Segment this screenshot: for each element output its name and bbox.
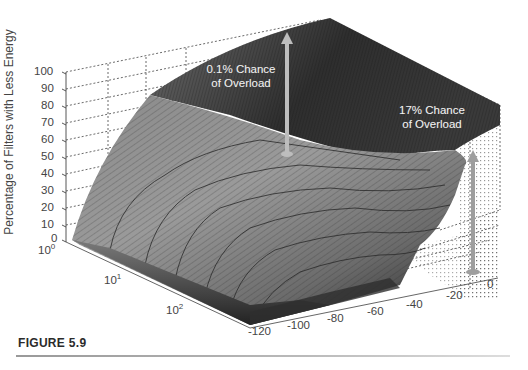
z-tick: 20 — [41, 201, 54, 213]
z-tick: 100 — [34, 65, 53, 77]
caption-divider — [16, 355, 510, 357]
z-axis-label: Percentage of Filters with Less Energy — [2, 12, 16, 252]
log-tick: 100 — [38, 242, 55, 256]
annotation-17pct: 17% Chance of Overload — [392, 103, 472, 131]
linear-tick: 0 — [487, 278, 493, 290]
z-tick: 60 — [41, 133, 54, 145]
z-tick: 80 — [41, 99, 54, 111]
z-tick: 50 — [41, 150, 54, 162]
z-tick: 70 — [41, 116, 54, 128]
annotation-0.1pct: 0.1% Chance of Overload — [196, 62, 286, 90]
linear-tick: -100 — [287, 319, 310, 331]
z-tick: 40 — [41, 167, 54, 179]
linear-tick: -40 — [406, 298, 423, 310]
z-tick: 30 — [41, 184, 54, 196]
surface-plot — [0, 0, 528, 370]
linear-tick: -20 — [446, 289, 463, 301]
figure-caption: FIGURE 5.9 — [18, 336, 86, 350]
z-tick: 90 — [41, 82, 54, 94]
linear-tick: -60 — [367, 305, 384, 317]
log-tick: 102 — [166, 302, 183, 316]
z-axis — [62, 72, 66, 242]
log-tick: 101 — [104, 272, 121, 286]
z-tick: 10 — [41, 218, 54, 230]
linear-tick: -120 — [248, 325, 271, 337]
linear-tick: -80 — [327, 312, 344, 324]
